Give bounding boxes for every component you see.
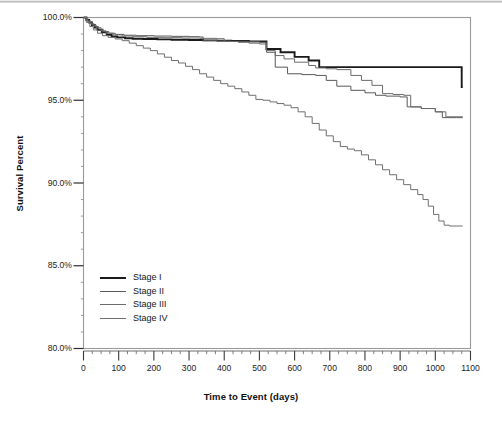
legend-line-swatch-4 bbox=[100, 318, 126, 319]
legend-label-1: Stage I bbox=[133, 271, 162, 285]
x-tick-label-600: 600 bbox=[275, 363, 315, 373]
x-tick-label-1000: 1000 bbox=[415, 363, 455, 373]
y-tick-label-800: 80.0% bbox=[14, 343, 72, 353]
chart-legend: Stage IStage IIStage IIIStage IV bbox=[100, 271, 168, 325]
plot-area-svg bbox=[0, 0, 502, 425]
survival-chart-figure: Survival Percent Time to Event (days) 80… bbox=[0, 0, 502, 425]
y-tick-label-950: 95.0% bbox=[14, 95, 72, 105]
y-tick-label-850: 85.0% bbox=[14, 260, 72, 270]
x-tick-label-700: 700 bbox=[310, 363, 350, 373]
x-axis-title: Time to Event (days) bbox=[0, 391, 502, 402]
x-tick-label-200: 200 bbox=[134, 363, 174, 373]
y-axis-title: Survival Percent bbox=[14, 109, 25, 239]
x-tick-label-400: 400 bbox=[204, 363, 244, 373]
y-tick-label-900: 90.0% bbox=[14, 178, 72, 188]
x-tick-label-100: 100 bbox=[99, 363, 139, 373]
x-tick-label-800: 800 bbox=[345, 363, 385, 373]
legend-item-4[interactable]: Stage IV bbox=[100, 312, 168, 326]
legend-line-swatch-1 bbox=[100, 277, 126, 279]
x-tick-label-1100: 1100 bbox=[451, 363, 491, 373]
y-tick-label-1000: 100.0% bbox=[14, 12, 72, 22]
legend-item-2[interactable]: Stage II bbox=[100, 285, 168, 299]
x-tick-label-0: 0 bbox=[64, 363, 104, 373]
legend-item-1[interactable]: Stage I bbox=[100, 271, 168, 285]
legend-line-swatch-2 bbox=[100, 291, 126, 292]
x-tick-label-500: 500 bbox=[239, 363, 279, 373]
legend-label-4: Stage IV bbox=[133, 312, 168, 326]
x-tick-label-300: 300 bbox=[169, 363, 209, 373]
legend-line-swatch-3 bbox=[100, 304, 126, 305]
legend-label-2: Stage II bbox=[133, 285, 164, 299]
legend-item-3[interactable]: Stage III bbox=[100, 298, 168, 312]
legend-label-3: Stage III bbox=[133, 298, 167, 312]
x-tick-label-900: 900 bbox=[380, 363, 420, 373]
